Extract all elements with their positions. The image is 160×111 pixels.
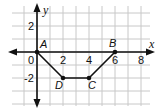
y-tick-label: -2 — [24, 72, 34, 84]
x-axis-label: x — [148, 37, 155, 51]
x-tick-label: 2 — [60, 54, 66, 66]
point-label-d: D — [55, 79, 63, 91]
x-tick-label: 0 — [28, 54, 34, 66]
y-axis-arrow-up-icon — [34, 3, 41, 12]
x-tick-label: 4 — [86, 54, 92, 66]
coordinate-plane: yx 024682-2 ABCD — [0, 0, 160, 111]
point-label-a: A — [39, 38, 47, 50]
point-label-b: B — [109, 37, 116, 49]
point-b — [113, 50, 118, 55]
y-tick-label: 2 — [28, 20, 34, 32]
y-axis-label: y — [42, 3, 49, 17]
x-tick-label: 8 — [138, 54, 144, 66]
x-axis-arrow-left-icon — [8, 49, 17, 56]
point-a — [35, 50, 40, 55]
point-label-c: C — [88, 79, 96, 91]
x-tick-label: 6 — [112, 54, 118, 66]
